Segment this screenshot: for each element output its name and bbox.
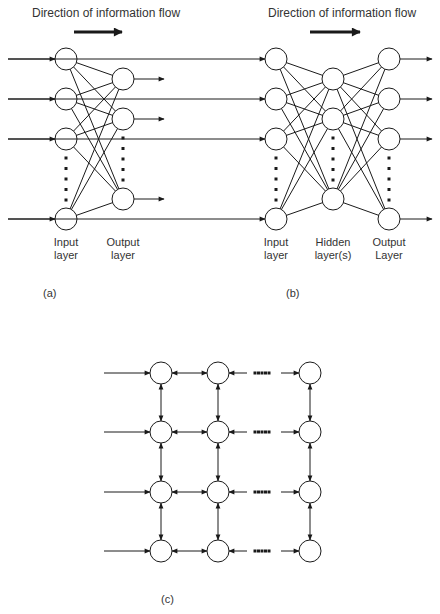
panel-a-single-layer-network [8, 32, 164, 230]
hidden-node [322, 68, 344, 90]
ellipsis-dot [122, 179, 125, 182]
ellipsis-dot [254, 431, 257, 434]
ellipsis-dot [332, 147, 335, 150]
output-node [378, 208, 400, 230]
output-node [112, 68, 134, 90]
ellipsis-dot [254, 372, 257, 375]
ellipsis-dot [261, 550, 264, 553]
panel-a-input-layer-label: Input layer [46, 236, 86, 262]
grid-node [150, 421, 172, 443]
input-node [265, 88, 287, 110]
output-node [378, 128, 400, 150]
neural-network-diagrams [0, 0, 440, 614]
ellipsis-dot [275, 178, 278, 181]
ellipsis-dot [122, 147, 125, 150]
grid-node [207, 362, 229, 384]
ellipsis-dot [65, 199, 68, 202]
ellipsis-dot [261, 491, 264, 494]
grid-node [299, 362, 321, 384]
grid-node [299, 421, 321, 443]
panel-c-recurrent-grid-network [104, 362, 321, 562]
ellipsis-dot [261, 431, 264, 434]
panel-b-caption: (b) [286, 287, 299, 299]
ellipsis-dot [257, 550, 260, 553]
ellipsis-dot [388, 178, 391, 181]
ellipsis-dot [122, 168, 125, 171]
panel-a-output-layer-label: Output layer [100, 236, 146, 262]
ellipsis-dot [65, 178, 68, 181]
ellipsis-dot [257, 431, 260, 434]
ellipsis-dot [254, 491, 257, 494]
ellipsis-dot [388, 188, 391, 191]
output-node [112, 188, 134, 210]
panel-b-title: Direction of information flow [268, 6, 416, 20]
panel-b-output-layer-label: Output Layer [366, 236, 412, 262]
input-node [265, 48, 287, 70]
grid-node [207, 481, 229, 503]
ellipsis-dot [65, 188, 68, 191]
panel-a-title: Direction of information flow [32, 6, 180, 20]
ellipsis-dot [261, 372, 264, 375]
ellipsis-dot [388, 157, 391, 160]
ellipsis-dot [268, 372, 271, 375]
ellipsis-dot [264, 431, 267, 434]
panel-c-caption: (c) [161, 593, 174, 605]
input-node [265, 208, 287, 230]
hidden-node [322, 188, 344, 210]
ellipsis-dot [257, 372, 260, 375]
ellipsis-dot [65, 167, 68, 170]
ellipsis-dot [264, 491, 267, 494]
ellipsis-dot [332, 179, 335, 182]
output-node [378, 48, 400, 70]
ellipsis-dot [264, 372, 267, 375]
ellipsis-dot [122, 158, 125, 161]
panel-b-input-layer-label: Input layer [256, 236, 296, 262]
grid-node [150, 362, 172, 384]
hidden-node [322, 108, 344, 130]
panel-a-caption: (a) [43, 287, 56, 299]
grid-node [150, 540, 172, 562]
ellipsis-dot [388, 167, 391, 170]
connection-line [333, 59, 389, 119]
ellipsis-dot [268, 431, 271, 434]
ellipsis-dot [332, 137, 335, 140]
ellipsis-dot [254, 550, 257, 553]
ellipsis-dot [65, 157, 68, 160]
input-node [265, 128, 287, 150]
ellipsis-dot [275, 188, 278, 191]
grid-node [150, 481, 172, 503]
grid-node [207, 421, 229, 443]
ellipsis-dot [268, 550, 271, 553]
panel-b-hidden-layer-label: Hidden layer(s) [308, 236, 358, 262]
grid-node [299, 540, 321, 562]
ellipsis-dot [332, 168, 335, 171]
ellipsis-dot [388, 199, 391, 202]
ellipsis-dot [275, 157, 278, 160]
grid-node [299, 481, 321, 503]
ellipsis-dot [268, 491, 271, 494]
grid-node [207, 540, 229, 562]
ellipsis-dot [275, 199, 278, 202]
ellipsis-dot [332, 158, 335, 161]
ellipsis-dot [275, 167, 278, 170]
ellipsis-dot [257, 491, 260, 494]
ellipsis-dot [264, 550, 267, 553]
output-node [378, 88, 400, 110]
output-node [112, 108, 134, 130]
